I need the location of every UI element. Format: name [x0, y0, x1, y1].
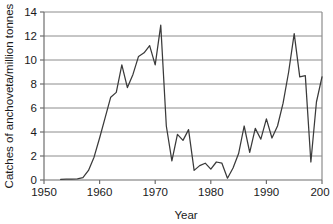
x-tick-label: 1960: [87, 186, 113, 198]
x-tick-marks-group: [44, 180, 322, 184]
y-tick-label: 2: [31, 150, 37, 162]
x-tick-labels-group: 19501960197019801990200: [31, 186, 329, 198]
x-tick-label: 1950: [31, 186, 57, 198]
x-tick-label: 200: [310, 186, 329, 198]
y-tick-label: 0: [31, 174, 37, 186]
y-axis-title: Catches of anchoveta/million tonnes: [3, 3, 15, 188]
x-tick-label: 1970: [142, 186, 168, 198]
x-tick-label: 1990: [254, 186, 280, 198]
y-tick-label: 12: [24, 30, 37, 42]
gridlines-group: [44, 12, 322, 156]
x-tick-label: 1980: [198, 186, 224, 198]
anchoveta-catches-chart: 02468101214 19501960197019801990200 Year…: [0, 0, 333, 224]
y-tick-label: 10: [24, 54, 37, 66]
y-tick-label: 4: [31, 126, 38, 138]
chart-canvas: 02468101214 19501960197019801990200 Year…: [0, 0, 333, 224]
x-axis-title: Year: [174, 209, 197, 221]
y-tick-label: 8: [31, 78, 37, 90]
y-tick-label: 14: [24, 6, 37, 18]
y-tick-label: 6: [31, 102, 37, 114]
y-tick-labels-group: 02468101214: [24, 6, 37, 186]
